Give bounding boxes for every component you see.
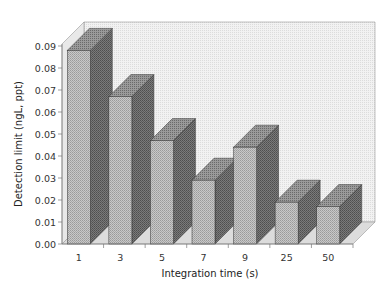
y-tick-label: 0.05 (35, 129, 56, 140)
x-tick-label: 3 (117, 252, 123, 263)
y-tick-label: 0.06 (35, 107, 56, 118)
bar-9 (234, 125, 279, 244)
y-tick-label: 0.08 (35, 63, 56, 74)
bar-1 (67, 28, 112, 244)
y-tick-label: 0.09 (35, 41, 56, 52)
y-tick-label: 0.00 (35, 239, 56, 250)
x-axis-title: Integration time (s) (161, 268, 258, 279)
x-tick-label: 5 (159, 252, 165, 263)
y-axis-title: Detection limit (ngL, ppt) (13, 81, 24, 207)
x-tick-label: 50 (322, 252, 334, 263)
x-axis: 135792550 (62, 244, 353, 263)
bar-5 (150, 119, 195, 244)
x-tick-label: 7 (200, 252, 206, 263)
y-tick-label: 0.04 (35, 151, 56, 162)
x-tick-label: 1 (76, 252, 82, 263)
y-tick-label: 0.03 (35, 173, 56, 184)
y-axis: 0.000.010.020.030.040.050.060.070.080.09 (35, 41, 62, 250)
bar-chart: 0.000.010.020.030.040.050.060.070.080.09… (0, 0, 390, 294)
y-tick-label: 0.02 (35, 195, 56, 206)
bar-3 (109, 75, 154, 244)
x-tick-label: 25 (281, 252, 293, 263)
x-tick-label: 9 (242, 252, 248, 263)
y-tick-label: 0.07 (35, 85, 56, 96)
y-tick-label: 0.01 (35, 217, 56, 228)
